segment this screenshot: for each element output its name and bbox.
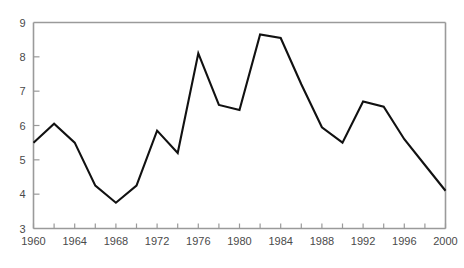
- y-tick-label: 5: [19, 154, 25, 166]
- y-tick-label: 6: [19, 120, 25, 132]
- x-tick-label: 2000: [433, 235, 457, 247]
- y-tick-label: 8: [19, 51, 25, 63]
- x-tick-label: 1992: [351, 235, 375, 247]
- x-tick-label: 1968: [104, 235, 128, 247]
- x-tick-label: 1984: [268, 235, 292, 247]
- x-tick-label: 1996: [392, 235, 416, 247]
- x-tick-label: 1960: [21, 235, 45, 247]
- x-tick-label: 1976: [186, 235, 210, 247]
- y-tick-label: 9: [19, 17, 25, 29]
- x-tick-label: 1988: [310, 235, 334, 247]
- data-series-line: [34, 35, 446, 203]
- x-tick-label: 1980: [227, 235, 251, 247]
- y-tick-label: 7: [19, 85, 25, 97]
- x-tick-label: 1972: [145, 235, 169, 247]
- x-tick-label: 1964: [62, 235, 86, 247]
- y-tick-label: 3: [19, 223, 25, 235]
- y-tick-label: 4: [19, 188, 25, 200]
- chart-canvas: 3456789196019641968197219761980198419881…: [0, 0, 464, 268]
- line-chart: 3456789196019641968197219761980198419881…: [0, 0, 464, 268]
